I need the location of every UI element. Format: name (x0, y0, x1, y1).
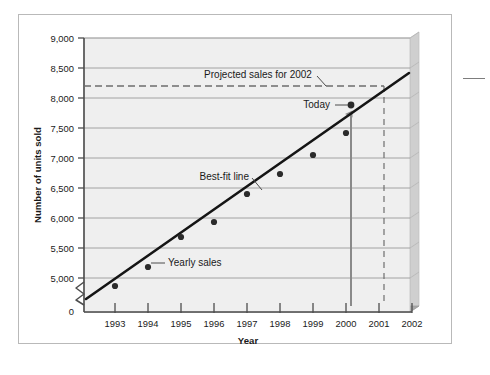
data-point (211, 219, 217, 225)
y-tick-label: 7,500 (51, 123, 74, 134)
data-point (310, 152, 316, 158)
data-point (343, 130, 349, 136)
figure-container: 9,000 8,500 8,000 7,500 7,000 6,500 6,00… (0, 0, 490, 375)
x-tick-label: 1996 (204, 318, 225, 329)
y-tick-label: 6,000 (51, 213, 74, 224)
x-tick-label: 2000 (336, 318, 357, 329)
x-tick-label: 1998 (270, 318, 291, 329)
y-tick-label: 8,000 (51, 93, 74, 104)
annotation-best-fit-line: Best-fit line (200, 171, 250, 182)
x-axis-title: Year (238, 335, 259, 346)
x-tick-label: 1995 (171, 318, 192, 329)
data-point (277, 171, 283, 177)
y-tick-label-zero: 0 (69, 306, 74, 317)
y-axis-title: Number of units sold (32, 127, 43, 223)
y-tick-labels: 9,000 8,500 8,000 7,500 7,000 6,500 6,00… (51, 33, 74, 318)
y-tick-marks (78, 38, 84, 278)
annotation-yearly-sales: Yearly sales (168, 257, 222, 268)
x-tick-label: 1999 (303, 318, 324, 329)
x-tick-label: 2001 (369, 318, 390, 329)
data-point (112, 283, 118, 289)
x-tick-labels: 1993 1994 1995 1996 1997 1998 1999 2000 … (105, 318, 423, 329)
y-tick-label: 9,000 (51, 33, 74, 44)
data-point (244, 191, 250, 197)
y-tick-label: 5,000 (51, 273, 74, 284)
y-tick-label: 8,500 (51, 63, 74, 74)
y-tick-label: 7,000 (51, 153, 74, 164)
data-point (145, 264, 151, 270)
y-tick-label: 5,500 (51, 243, 74, 254)
x-tick-label: 1997 (237, 318, 258, 329)
y-tick-label: 6,500 (51, 183, 74, 194)
data-point (348, 102, 355, 109)
x-tick-label: 1994 (138, 318, 159, 329)
annotation-projected-sales: Projected sales for 2002 (204, 69, 312, 80)
y-axis-break-symbol (76, 282, 84, 305)
annotation-today: Today (303, 99, 330, 110)
x-tick-label: 2002 (402, 318, 423, 329)
x-tick-label: 1993 (105, 318, 126, 329)
sales-scatter-chart: 9,000 8,500 8,000 7,500 7,000 6,500 6,00… (0, 0, 490, 375)
data-point (178, 234, 184, 240)
